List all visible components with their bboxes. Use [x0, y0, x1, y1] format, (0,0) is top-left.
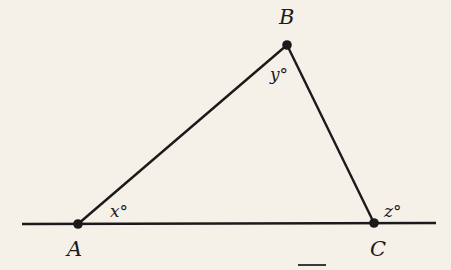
vertex-label-c: C [370, 237, 386, 261]
point-b [282, 40, 292, 50]
vertex-label-b: B [278, 5, 294, 29]
side-bc [287, 45, 374, 223]
angle-label-x: x° [110, 201, 128, 221]
angle-label-z: z° [383, 201, 401, 221]
angle-label-y: y° [269, 64, 288, 84]
vertex-label-a: A [65, 237, 82, 261]
point-c [369, 218, 379, 228]
point-a [73, 219, 83, 229]
triangle-diagram: B A C x° y° z° [0, 0, 451, 270]
side-ab [78, 45, 287, 224]
